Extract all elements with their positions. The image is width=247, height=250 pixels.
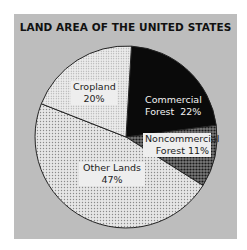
- slice-commercial-forest: [126, 46, 216, 137]
- label-noncommercial-forest: Noncommercial Forest 11%: [143, 133, 211, 157]
- label-commercial-forest: Commercial Forest 22%: [143, 94, 225, 118]
- label-cropland: Cropland 20%: [71, 81, 117, 105]
- pie-chart: [0, 0, 247, 250]
- label-other-lands: Other Lands 47%: [79, 162, 145, 186]
